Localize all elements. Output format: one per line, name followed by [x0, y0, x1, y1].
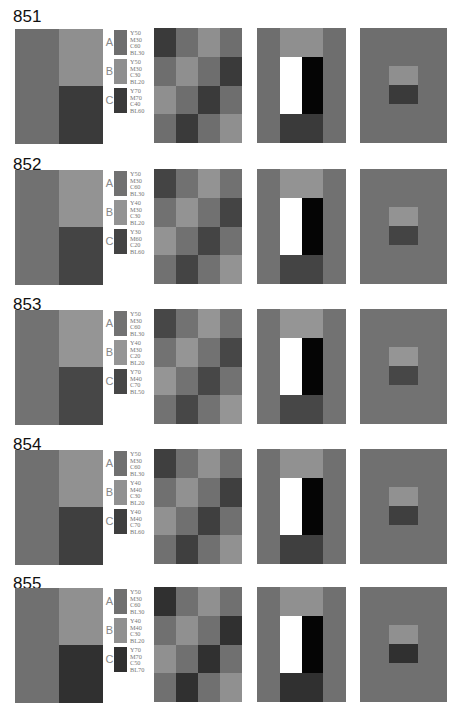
- cmyk-value: BL30: [130, 50, 144, 57]
- checker-cell: [176, 449, 198, 478]
- composite-swatch: [15, 450, 103, 565]
- checker-cell: [198, 367, 220, 396]
- cmyk-value: BL70: [130, 667, 144, 674]
- checker-cell: [220, 616, 242, 645]
- checker-cell: [154, 507, 176, 536]
- checker-cell: [176, 338, 198, 367]
- cmyk-value: BL20: [130, 79, 144, 86]
- checker-cell: [176, 86, 198, 115]
- swatch-letter: C: [105, 653, 114, 665]
- color-swatch: [114, 369, 127, 394]
- checker-cell: [198, 395, 220, 424]
- cmyk-label: Y50M30C60BL30: [130, 589, 144, 615]
- frame-swatch: [257, 449, 346, 564]
- color-swatch: [114, 340, 127, 365]
- frame-top-b: [280, 169, 323, 198]
- checker-cell: [220, 395, 242, 424]
- color-swatch: [114, 200, 127, 225]
- checker-cell: [198, 478, 220, 507]
- checker-cell: [220, 28, 242, 57]
- swatch-letter: A: [105, 595, 114, 607]
- swatch-letter: C: [105, 515, 114, 527]
- composite-swatch: [15, 29, 103, 144]
- checker-cell: [198, 86, 220, 115]
- checker-cell: [154, 86, 176, 115]
- checkerboard: [154, 587, 242, 702]
- color-swatch: [114, 647, 127, 672]
- contrast-c: [389, 85, 418, 104]
- checker-cell: [154, 395, 176, 424]
- checker-cell: [220, 507, 242, 536]
- checker-cell: [220, 57, 242, 86]
- contrast-swatch: [360, 28, 447, 143]
- checker-cell: [198, 28, 220, 57]
- frame-white: [280, 616, 302, 673]
- checker-cell: [220, 227, 242, 256]
- cmyk-value: BL20: [130, 220, 144, 227]
- swatch-letter: B: [105, 65, 114, 77]
- checker-cell: [176, 198, 198, 227]
- frame-black: [302, 616, 323, 673]
- checker-cell: [176, 227, 198, 256]
- swatch-letter: A: [105, 177, 114, 189]
- cmyk-value: BL60: [130, 529, 144, 536]
- frame-bottom-c: [280, 395, 323, 424]
- contrast-c: [389, 644, 418, 663]
- checker-cell: [176, 367, 198, 396]
- composite-bottom-c: [59, 367, 103, 425]
- composite-bottom-c: [59, 86, 103, 144]
- cmyk-value: BL30: [130, 471, 144, 478]
- contrast-c: [389, 506, 418, 525]
- checker-cell: [198, 507, 220, 536]
- swatch-letter: B: [105, 486, 114, 498]
- frame-bottom-c: [280, 673, 323, 702]
- checker-cell: [154, 338, 176, 367]
- swatch-block: 852AY50M30C60BL30BY40M30C30BL20CY30M60C2…: [0, 156, 463, 296]
- frame-swatch: [257, 309, 346, 424]
- cmyk-value: BL30: [130, 609, 144, 616]
- contrast-b: [389, 487, 418, 506]
- checkerboard: [154, 28, 242, 143]
- checker-cell: [220, 673, 242, 702]
- frame-black: [302, 198, 323, 255]
- checker-cell: [198, 449, 220, 478]
- cmyk-label: Y70M70C40BL60: [130, 88, 144, 114]
- cmyk-label: Y50M30C60BL30: [130, 171, 144, 197]
- cmyk-value: BL20: [130, 360, 144, 367]
- checker-cell: [154, 227, 176, 256]
- swatch-letter: B: [105, 624, 114, 636]
- color-swatch: [114, 618, 127, 643]
- checker-cell: [154, 57, 176, 86]
- cmyk-value: BL50: [130, 389, 144, 396]
- contrast-c: [389, 366, 418, 385]
- composite-left-a: [15, 588, 59, 703]
- cmyk-label: Y50M30C60BL30: [130, 311, 144, 337]
- contrast-c: [389, 226, 418, 245]
- checker-cell: [176, 587, 198, 616]
- cmyk-value: BL30: [130, 191, 144, 198]
- frame-top-b: [280, 309, 323, 338]
- checkerboard: [154, 169, 242, 284]
- color-swatch: [114, 30, 127, 55]
- frame-white: [280, 478, 302, 535]
- swatch-letter: C: [105, 375, 114, 387]
- checker-cell: [220, 198, 242, 227]
- checker-cell: [220, 587, 242, 616]
- composite-swatch: [15, 170, 103, 285]
- checker-cell: [176, 309, 198, 338]
- checker-cell: [176, 478, 198, 507]
- checker-cell: [198, 338, 220, 367]
- cmyk-value: BL30: [130, 331, 144, 338]
- swatch-letter: A: [105, 317, 114, 329]
- checker-cell: [198, 645, 220, 674]
- cmyk-label: Y50M30C30BL20: [130, 59, 144, 85]
- checker-cell: [220, 645, 242, 674]
- checker-cell: [198, 114, 220, 143]
- checker-cell: [198, 227, 220, 256]
- checker-cell: [176, 169, 198, 198]
- color-swatch: [114, 88, 127, 113]
- composite-left-a: [15, 310, 59, 425]
- contrast-swatch: [360, 309, 447, 424]
- composite-bottom-c: [59, 227, 103, 285]
- contrast-b: [389, 347, 418, 366]
